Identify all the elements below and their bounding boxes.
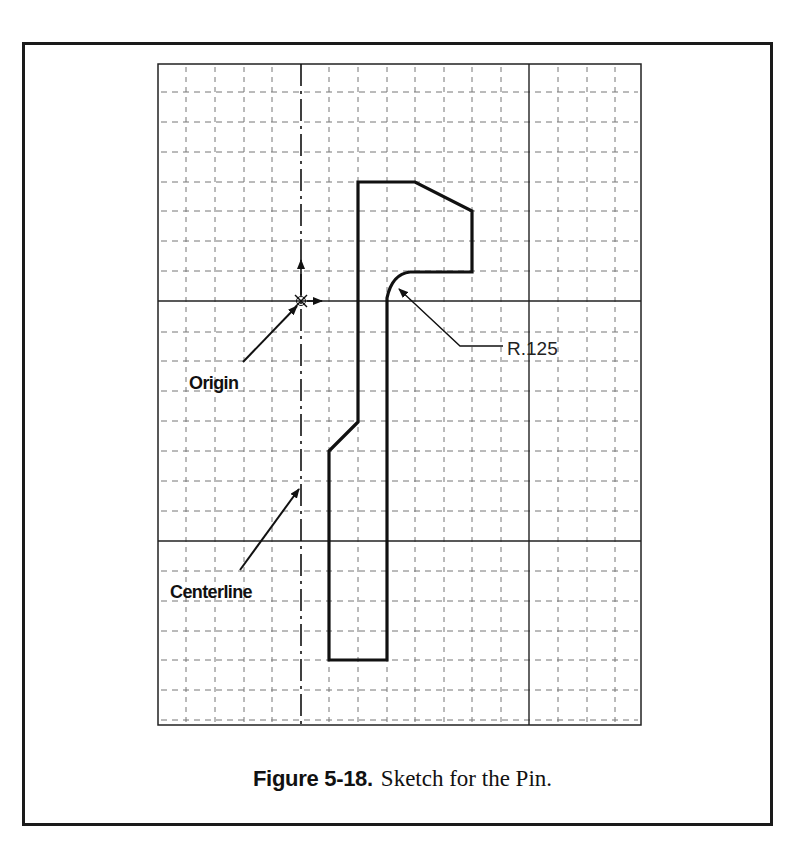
- sketch-grid-border: [158, 64, 641, 725]
- origin-label: Origin: [189, 373, 238, 393]
- figure-caption-text: Sketch for the Pin.: [381, 766, 552, 791]
- pin-sketch-diagram: Origin Centerline R.125: [0, 0, 805, 860]
- centerline-label: Centerline: [170, 582, 253, 602]
- figure-caption: Figure 5-18.Sketch for the Pin.: [0, 766, 805, 792]
- figure-number: Figure 5-18.: [253, 766, 373, 791]
- radius-dimension-label: R.125: [507, 338, 558, 359]
